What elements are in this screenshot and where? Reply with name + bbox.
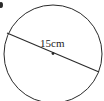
- diameter-label: 15cm: [40, 37, 65, 49]
- center-point: [52, 52, 55, 55]
- circle-diagram: 15cm: [0, 0, 104, 101]
- corner-bullet-mark: [0, 2, 3, 8]
